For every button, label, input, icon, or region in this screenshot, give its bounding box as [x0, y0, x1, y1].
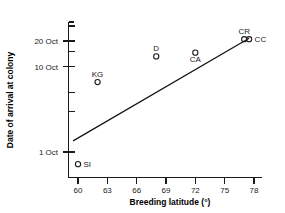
- chart-canvas: 1 Oct10 Oct20 Oct 60636669727578 SIKGDCA…: [0, 0, 285, 213]
- y-tick-label: 10 Oct: [34, 63, 58, 72]
- x-tick-label: 63: [103, 186, 112, 195]
- scatter-plot-figure: 1 Oct10 Oct20 Oct 60636669727578 SIKGDCA…: [0, 0, 285, 213]
- data-point-label: SI: [84, 160, 92, 169]
- data-point-label: KG: [92, 70, 104, 79]
- data-point-marker[interactable]: [95, 79, 100, 84]
- data-point-marker[interactable]: [154, 54, 159, 59]
- y-tick-label: 1 Oct: [39, 148, 59, 157]
- data-points-group: SIKGDCACRCC: [75, 27, 266, 169]
- y-axis-title: Date of arrival at colony: [5, 52, 15, 149]
- x-tick-label: 66: [132, 186, 141, 195]
- data-point-label: CR: [238, 27, 250, 36]
- x-tick-label-group: 60636669727578: [74, 186, 259, 195]
- y-tick-label-group: 1 Oct10 Oct20 Oct: [34, 37, 58, 157]
- data-point-label: D: [153, 44, 159, 53]
- x-tick-label: 78: [250, 186, 259, 195]
- data-point-label: CA: [190, 55, 202, 64]
- trend-line-group: [73, 38, 249, 141]
- y-tick-label: 20 Oct: [34, 37, 58, 46]
- x-tick-label: 75: [220, 186, 229, 195]
- data-point-label: CC: [255, 35, 267, 44]
- regression-line: [73, 38, 249, 141]
- data-point-marker[interactable]: [75, 162, 80, 167]
- x-tick-label: 72: [191, 186, 200, 195]
- x-axis-title: Breeding latitude (°): [130, 197, 211, 207]
- y-axis: [69, 22, 75, 178]
- x-tick-label: 60: [74, 186, 83, 195]
- x-tick-label: 69: [162, 186, 171, 195]
- x-tick-group: [78, 178, 254, 184]
